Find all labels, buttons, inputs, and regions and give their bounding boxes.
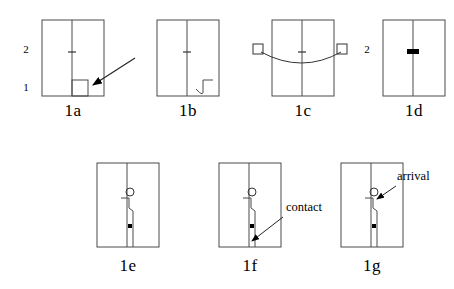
panel-1b-hook: [196, 80, 203, 94]
panel-1c-sagging-curve: [261, 52, 341, 63]
panel-1g: [341, 163, 403, 247]
panel-1f-frame: [219, 163, 281, 247]
panel-1c: [253, 20, 347, 96]
panel-1e-frame: [97, 163, 159, 247]
figure-container: 1a 1b 1c 1d 1e 1f 1g 2 1 2 contact arriv…: [0, 0, 454, 289]
contact-annotation-label: contact: [286, 200, 322, 215]
panel-caption-1a: 1a: [53, 101, 93, 121]
panel-1b: [157, 20, 219, 96]
panel-caption-1g: 1g: [352, 256, 392, 276]
diagram-canvas: [0, 0, 454, 289]
panel-1e: [97, 163, 159, 247]
panel-caption-1f: 1f: [230, 256, 270, 276]
panel-1a-pointer-arrow: [93, 58, 135, 85]
panel-1d-marker: [407, 49, 419, 54]
axis-label-level-2-panel-1d: 2: [361, 43, 373, 55]
panel-1b-frame: [157, 20, 219, 96]
panel-1f-filled-square: [250, 224, 254, 228]
panel-caption-1d: 1d: [394, 101, 434, 121]
panel-1a-frame: [42, 20, 104, 96]
panel-1g-frame: [341, 163, 403, 247]
arrival-annotation-label: arrival: [397, 169, 430, 184]
panel-1e-filled-square: [128, 224, 132, 228]
panel-1d: [383, 20, 445, 96]
panel-caption-1b: 1b: [168, 101, 208, 121]
panel-caption-1c: 1c: [283, 101, 323, 121]
panel-1a: [42, 20, 135, 96]
axis-label-level-1-left: 1: [20, 81, 32, 93]
contact-annotation-arrow: [252, 217, 283, 241]
panel-1c-frame: [272, 20, 334, 96]
arrival-annotation-arrow: [377, 186, 396, 199]
panel-1d-frame: [383, 20, 445, 96]
panel-1a-small-rect: [72, 80, 88, 96]
panel-caption-1e: 1e: [108, 256, 148, 276]
panel-1c-right-anchor-square: [337, 44, 347, 54]
axis-label-level-2-left: 2: [20, 43, 32, 55]
panel-1f: [219, 163, 283, 247]
panel-1g-filled-square: [372, 224, 376, 228]
